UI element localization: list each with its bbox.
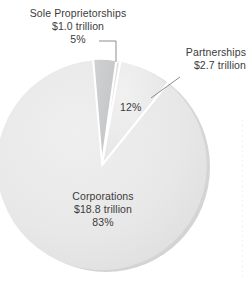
slice-label-sole-proprietorships-amount: $1.0 trillion bbox=[16, 20, 140, 33]
slice-label-corporations-amount: $18.8 trillion bbox=[38, 203, 168, 216]
slice-label-corporations-name: Corporations bbox=[38, 190, 168, 203]
scan-edge-artifact bbox=[242, 120, 243, 280]
slice-label-sole-proprietorships: Sole Proprietorships $1.0 trillion 5% bbox=[16, 7, 140, 46]
slice-label-sole-proprietorships-percent: 5% bbox=[16, 33, 140, 46]
slice-label-partnerships-name: Partnerships bbox=[176, 46, 246, 59]
slice-label-partnerships-amount: $2.7 trillion bbox=[176, 59, 246, 72]
slice-label-sole-proprietorships-name: Sole Proprietorships bbox=[16, 7, 140, 20]
slice-label-corporations: Corporations $18.8 trillion 83% bbox=[38, 190, 168, 229]
slice-label-partnerships-percent: 12% bbox=[120, 101, 160, 114]
slice-label-partnerships: Partnerships $2.7 trillion bbox=[176, 46, 246, 72]
pie-chart-figure: Sole Proprietorships $1.0 trillion 5% Pa… bbox=[0, 0, 248, 283]
slice-label-corporations-percent: 83% bbox=[38, 216, 168, 229]
